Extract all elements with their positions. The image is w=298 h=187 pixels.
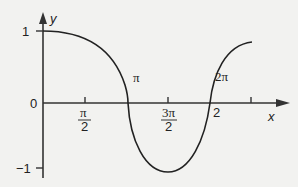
chart-canvas: y x 1 0 −1 π 2π π 2 3π 2 2 [0, 0, 298, 187]
y-label-neg-one: −1 [16, 161, 31, 176]
x-axis-arrow-icon [276, 99, 290, 107]
x-tick-label-pi-half-den: 2 [81, 119, 88, 134]
x-tick-label-two: 2 [213, 105, 220, 120]
function-curve [43, 31, 252, 172]
y-label-zero: 0 [30, 96, 37, 111]
pi-annotation: π [133, 70, 140, 85]
x-axis-label: x [267, 109, 275, 124]
x-tick-label-pi-half-num: π [80, 105, 87, 120]
x-tick-label-3pi-half-num: 3π [162, 105, 176, 120]
y-axis-label: y [49, 11, 58, 26]
y-axis-arrow-icon [39, 12, 47, 24]
y-label-one: 1 [22, 24, 29, 39]
x-tick-label-3pi-half-den: 2 [165, 119, 172, 134]
two-pi-annotation: 2π [215, 69, 229, 84]
